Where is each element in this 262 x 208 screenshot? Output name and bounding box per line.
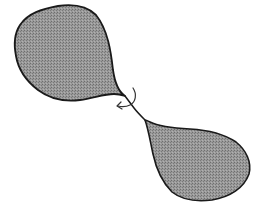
upper-lobe <box>15 5 125 100</box>
lower-lobe <box>145 120 250 201</box>
twisted-lobes-diagram <box>0 0 262 208</box>
